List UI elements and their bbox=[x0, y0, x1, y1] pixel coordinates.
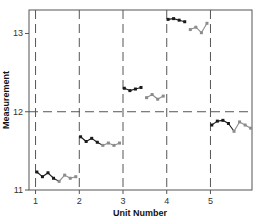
series-1 bbox=[35, 171, 77, 183]
data-point bbox=[189, 28, 192, 31]
data-point bbox=[35, 171, 38, 174]
y-axis-title: Measurement bbox=[1, 71, 11, 129]
data-point bbox=[69, 177, 72, 180]
series-3 bbox=[123, 86, 165, 101]
x-tick-label: 3 bbox=[121, 196, 126, 206]
data-point bbox=[58, 180, 61, 183]
data-point bbox=[238, 120, 241, 123]
y-tick-label: 12 bbox=[13, 107, 23, 117]
series-4 bbox=[167, 17, 209, 34]
data-point bbox=[63, 174, 66, 177]
data-point bbox=[85, 140, 88, 143]
series-layer bbox=[35, 17, 252, 183]
x-tick-label: 5 bbox=[208, 196, 213, 206]
data-point bbox=[233, 130, 236, 133]
plot-frame bbox=[29, 10, 252, 190]
data-point bbox=[216, 120, 219, 123]
y-tick-label: 11 bbox=[14, 185, 23, 195]
data-point bbox=[200, 31, 203, 34]
data-point bbox=[183, 20, 186, 23]
data-point bbox=[79, 135, 82, 138]
data-point bbox=[221, 119, 224, 122]
reference-lines bbox=[29, 10, 252, 190]
data-point bbox=[123, 87, 126, 90]
data-point bbox=[90, 137, 93, 140]
data-point bbox=[167, 18, 170, 21]
data-point bbox=[118, 142, 121, 145]
data-point bbox=[74, 175, 77, 178]
data-point bbox=[139, 86, 142, 89]
x-axis-ticks: 12345 bbox=[33, 190, 213, 206]
data-point bbox=[151, 93, 154, 96]
data-point bbox=[156, 98, 159, 101]
data-point bbox=[52, 177, 55, 180]
data-point bbox=[194, 26, 197, 29]
x-tick-label: 4 bbox=[164, 196, 169, 206]
data-point bbox=[172, 17, 175, 20]
data-point bbox=[101, 144, 104, 147]
series-2 bbox=[79, 135, 121, 147]
x-tick-label: 2 bbox=[77, 196, 82, 206]
data-point bbox=[145, 96, 148, 99]
data-point bbox=[112, 144, 115, 147]
data-point bbox=[96, 141, 99, 144]
data-point bbox=[227, 122, 230, 125]
data-point bbox=[41, 175, 44, 178]
data-point bbox=[134, 88, 137, 91]
x-axis-title: Unit Number bbox=[113, 208, 167, 218]
y-tick-label: 13 bbox=[13, 28, 23, 38]
data-point bbox=[205, 22, 208, 25]
data-point bbox=[107, 142, 110, 145]
data-point bbox=[46, 171, 49, 174]
series-5 bbox=[210, 119, 252, 133]
data-point bbox=[178, 19, 181, 22]
x-tick-label: 1 bbox=[33, 196, 38, 206]
data-point bbox=[210, 124, 213, 127]
data-point bbox=[128, 89, 131, 92]
chart: 111213 12345 Unit Number Measurement bbox=[0, 0, 259, 224]
data-point bbox=[162, 95, 165, 98]
data-point bbox=[244, 124, 247, 127]
data-point bbox=[249, 127, 252, 130]
y-axis-ticks: 111213 bbox=[13, 28, 29, 195]
